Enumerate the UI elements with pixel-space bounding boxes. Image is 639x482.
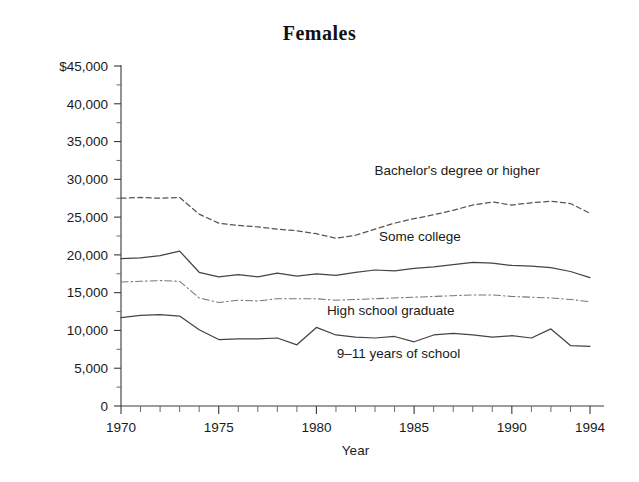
series-line-2 — [121, 281, 590, 303]
x-tick-label: 1985 — [399, 420, 429, 435]
series-label-2: High school graduate — [327, 303, 455, 318]
x-tick-label: 1970 — [106, 420, 136, 435]
y-tick-label: 40,000 — [67, 97, 108, 112]
y-tick-label: 25,000 — [67, 210, 108, 225]
y-tick-label: 20,000 — [67, 248, 108, 263]
x-tick-label: 1980 — [301, 420, 331, 435]
y-tick-label: 30,000 — [67, 172, 108, 187]
series-label-1: Some college — [379, 229, 461, 244]
series-label-3: 9–11 years of school — [337, 346, 461, 361]
y-tick-label: 35,000 — [67, 134, 108, 149]
x-tick-label: 1990 — [497, 420, 527, 435]
x-axis-title: Year — [342, 443, 370, 458]
x-tick-label: 1994 — [575, 420, 606, 435]
y-tick-label: 10,000 — [67, 323, 108, 338]
x-tick-label: 1975 — [204, 420, 234, 435]
y-tick-label: 5,000 — [74, 361, 108, 376]
series-line-0 — [121, 197, 590, 238]
y-tick-label: 0 — [100, 399, 108, 414]
series-line-1 — [121, 251, 590, 277]
chart-container: Females 05,00010,00015,00020,00025,00030… — [0, 0, 639, 482]
y-tick-label: $45,000 — [59, 59, 108, 74]
line-chart-plot: 05,00010,00015,00020,00025,00030,00035,0… — [0, 0, 639, 482]
series-label-0: Bachelor's degree or higher — [374, 163, 540, 178]
y-tick-label: 15,000 — [67, 285, 108, 300]
series-line-3 — [121, 315, 590, 347]
